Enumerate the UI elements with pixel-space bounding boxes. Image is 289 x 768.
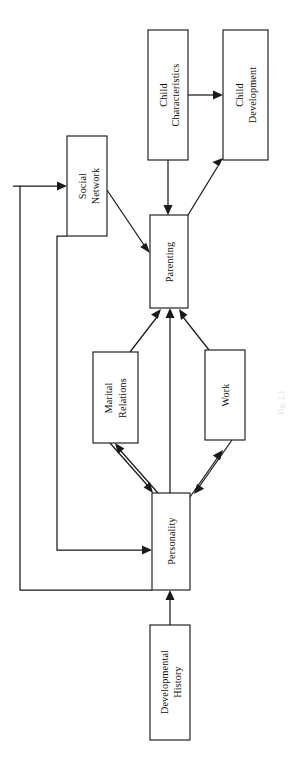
node-label-child-development-line1: Child: [234, 83, 245, 106]
edge-child-characteristics-to-parenting: [164, 160, 173, 215]
node-label-developmental-history-line1: Developmental: [159, 650, 170, 714]
edge-marital-relations-to-personality: [110, 443, 153, 493]
edge-work-to-parenting: [179, 309, 209, 350]
figure-root: Child Characteristics Child Development …: [0, 0, 289, 768]
node-marital-relations[interactable]: Marital Relations: [93, 352, 138, 443]
edge-developmental-history-to-personality: [166, 590, 175, 625]
node-child-development[interactable]: Child Development: [223, 30, 268, 160]
node-label-work: Work: [220, 383, 231, 407]
node-personality[interactable]: Personality: [152, 493, 190, 590]
node-label-child-characteristics-line2: Characteristics: [170, 64, 181, 127]
node-label-personality: Personality: [166, 517, 177, 565]
node-label-developmental-history-line2: History: [172, 665, 183, 697]
edge-marital-relations-to-parenting: [130, 309, 161, 352]
node-label-child-characteristics-line1: Child: [158, 83, 169, 106]
edge-personality-to-parenting: [166, 308, 175, 493]
node-parenting[interactable]: Parenting: [150, 215, 188, 308]
node-work[interactable]: Work: [205, 350, 245, 440]
edge-social-network-to-parenting: [107, 190, 150, 253]
node-label-social-network-line1: Social: [77, 173, 88, 199]
edge-personality-to-work: [190, 450, 223, 497]
node-label-social-network-line2: Network: [90, 167, 101, 204]
node-label-child-development-line2: Development: [247, 67, 258, 124]
edge-child-characteristics-to-child-development: [188, 91, 223, 100]
node-developmental-history[interactable]: Developmental History: [150, 625, 190, 740]
edge-personality-to-marital-relations: [115, 443, 158, 493]
edge-parenting-to-child-development: [188, 158, 223, 215]
node-child-characteristics[interactable]: Child Characteristics: [148, 30, 188, 160]
node-social-network[interactable]: Social Network: [67, 136, 107, 236]
edge-work-to-personality: [194, 440, 232, 494]
node-label-marital-relations-line1: Marital: [103, 382, 114, 413]
node-label-parenting: Parenting: [164, 242, 175, 282]
diagram-canvas: Child Characteristics Child Development …: [0, 0, 289, 768]
node-label-marital-relations-line2: Relations: [117, 378, 128, 418]
figure-caption-fragment: Fig. 2.1: [277, 390, 286, 415]
